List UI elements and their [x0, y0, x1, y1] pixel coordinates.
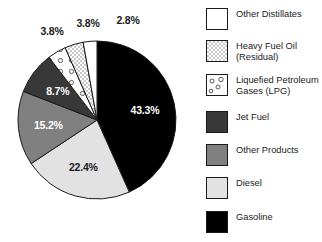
circles-pattern-swatch — [206, 74, 228, 96]
legend-item[interactable]: Liquefied Petroleum Gases (LPG) — [206, 74, 319, 96]
legend-item[interactable]: Gasoline — [206, 211, 273, 233]
medium-gray-swatch — [206, 144, 228, 166]
pie-slice-label: 22.4% — [69, 161, 99, 173]
legend-item[interactable]: Other Products — [206, 144, 299, 166]
chart-legend: Other DistillatesHeavy Fuel Oil (Residua… — [206, 4, 322, 240]
legend-item-label: Jet Fuel — [236, 111, 269, 123]
legend-item-label: Diesel — [236, 177, 262, 189]
legend-item-label: Gasoline — [236, 211, 273, 223]
pie-slice-label: 3.8% — [40, 25, 64, 37]
legend-item[interactable]: Jet Fuel — [206, 111, 269, 133]
pie-slice-label: 2.8% — [116, 14, 140, 26]
legend-item[interactable]: Other Distillates — [206, 8, 302, 30]
white-solid-swatch — [206, 8, 228, 30]
legend-item-label: Other Products — [236, 144, 299, 156]
light-gray-swatch — [206, 177, 228, 199]
pie-slice-label: 15.2% — [34, 119, 64, 131]
pie-slice-label: 3.8% — [76, 17, 100, 29]
legend-item-label: Liquefied Petroleum Gases (LPG) — [236, 74, 319, 96]
pie-slice-label: 8.7% — [46, 85, 70, 97]
pie-chart-plot: 43.3%22.4%15.2%8.7%3.8%3.8%2.8% — [0, 0, 206, 242]
checker-pattern-swatch — [206, 40, 228, 62]
legend-item[interactable]: Heavy Fuel Oil (Residual) — [206, 40, 297, 62]
pie-slice-label: 43.3% — [131, 104, 161, 116]
legend-item-label: Other Distillates — [236, 8, 302, 20]
legend-item-label: Heavy Fuel Oil (Residual) — [236, 40, 297, 62]
dark-gray-swatch — [206, 111, 228, 133]
pie-chart-figure: 43.3%22.4%15.2%8.7%3.8%3.8%2.8% Other Di… — [0, 0, 322, 242]
legend-item[interactable]: Diesel — [206, 177, 262, 199]
black-swatch — [206, 211, 228, 233]
